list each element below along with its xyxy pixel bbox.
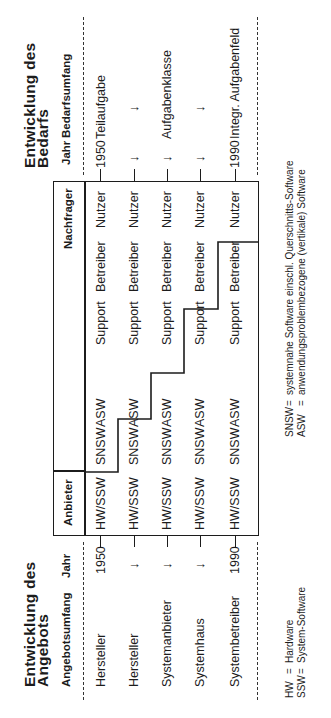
tick-right-5 <box>235 169 236 182</box>
legend-desc-hw: Hardware <box>284 620 296 663</box>
legend-desc-snsw: systemnahe Software einschl. Querschnitt… <box>284 160 296 395</box>
legend-desc-asw: anwendungsproblembezogene (vertikale) So… <box>296 169 308 395</box>
cell-betreiber: Betreiber <box>95 241 108 292</box>
cell-nutzer: Nutzer <box>161 191 174 228</box>
legend-eq: = <box>296 668 308 674</box>
cell-snsw: SNSW <box>229 428 242 466</box>
arrow-down-icon: ↓ <box>193 106 206 113</box>
tick-right-2 <box>134 169 135 182</box>
arrow-down-icon: ↓ <box>127 106 140 113</box>
cell-asw: ASW <box>194 399 207 427</box>
legend-eq: = <box>284 400 296 406</box>
cell-asw: ASW <box>229 399 242 427</box>
cell-snsw: SNSW <box>128 428 141 466</box>
cell-snsw: SNSW <box>161 428 174 466</box>
cell-nutzer: Nutzer <box>128 191 141 228</box>
legend-eq: = <box>284 668 296 674</box>
cell-nutzer: Nutzer <box>95 191 108 228</box>
cell-support: Support <box>194 301 207 345</box>
bedarf-year-1: 1950 <box>95 140 108 168</box>
cell-hw-ssw: HW/SSW <box>229 477 242 530</box>
cell-support: Support <box>95 301 108 345</box>
legend-abbr-hw: HW <box>284 681 296 698</box>
arrow-down-icon: ↓ <box>160 156 173 163</box>
arrow-down-icon: ↓ <box>127 156 140 163</box>
legend-abbr-ssw: SSW <box>296 675 308 698</box>
cell-nutzer: Nutzer <box>194 191 207 228</box>
rotated-page: Entwicklung des Angebots Entwicklung des… <box>0 0 331 718</box>
legend-desc-ssw: System-Software <box>296 587 308 663</box>
arrow-down-icon: ↓ <box>193 156 206 163</box>
cell-betreiber: Betreiber <box>194 241 207 292</box>
bedarf-row-3: Aufgabenklasse <box>161 50 174 139</box>
cell-betreiber: Betreiber <box>229 241 242 292</box>
cell-hw-ssw: HW/SSW <box>95 477 108 530</box>
cell-support: Support <box>229 301 242 345</box>
tick-right-4 <box>200 169 201 182</box>
cell-nutzer: Nutzer <box>229 191 242 228</box>
cell-support: Support <box>128 301 141 345</box>
legend-abbr-snsw: SNSW <box>284 407 296 437</box>
cell-snsw: SNSW <box>194 428 207 466</box>
cell-snsw: SNSW <box>95 428 108 466</box>
legend-abbr-asw: ASW <box>296 414 308 437</box>
cell-asw: ASW <box>161 399 174 427</box>
cell-hw-ssw: HW/SSW <box>194 477 207 530</box>
cell-hw-ssw: HW/SSW <box>128 477 141 530</box>
bedarf-year-5: 1990 <box>229 140 242 168</box>
bedarf-row-1: Teilaufgabe <box>95 75 108 139</box>
cell-asw: ASW <box>128 399 141 427</box>
cell-support: Support <box>161 301 174 345</box>
cell-hw-ssw: HW/SSW <box>161 477 174 530</box>
cell-betreiber: Betreiber <box>128 241 141 292</box>
cell-betreiber: Betreiber <box>161 241 174 292</box>
bedarf-row-5: Integr. Aufgabenfeld <box>229 28 242 139</box>
tick-right-1 <box>100 169 101 182</box>
tick-right-3 <box>167 169 168 182</box>
cell-asw: ASW <box>95 399 108 427</box>
legend-eq: = <box>296 400 308 406</box>
